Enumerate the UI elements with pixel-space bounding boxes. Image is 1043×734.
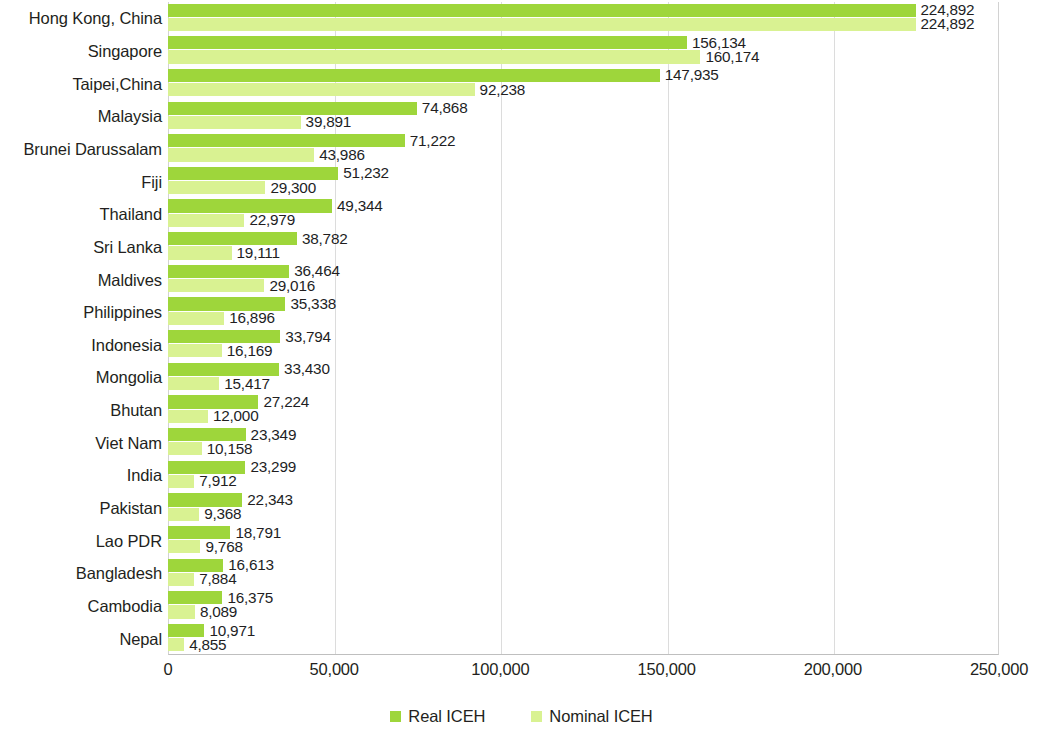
bar-value-label-nominal: 8,089 <box>200 605 237 618</box>
category-label: Philippines <box>2 303 162 322</box>
bar-nominal <box>168 475 194 488</box>
bar-value-label-nominal: 4,855 <box>189 638 226 651</box>
category-label: Indonesia <box>2 336 162 355</box>
legend-item[interactable]: Real ICEH <box>390 707 485 726</box>
x-tick-label: 250,000 <box>970 660 1028 679</box>
chart-row: Cambodia16,3758,089 <box>168 590 1043 623</box>
bar-nominal <box>168 540 200 553</box>
bar-nominal <box>168 377 219 390</box>
bar-nominal <box>168 344 222 357</box>
category-label: Viet Nam <box>2 434 162 453</box>
bar-value-label-real: 74,868 <box>422 101 468 114</box>
chart-row: Bhutan27,22412,000 <box>168 394 1043 427</box>
bar-value-label-real: 35,338 <box>290 297 336 310</box>
bar-value-label-nominal: 7,912 <box>199 474 236 487</box>
x-tick-label: 100,000 <box>471 660 529 679</box>
legend-item[interactable]: Nominal ICEH <box>531 707 652 726</box>
bar-value-label-real: 33,430 <box>284 362 330 375</box>
bar-nominal <box>168 148 314 161</box>
legend-swatch-icon <box>390 711 401 722</box>
bar-value-label-nominal: 10,158 <box>207 442 253 455</box>
bar-value-label-real: 22,343 <box>247 493 293 506</box>
bar-nominal <box>168 246 232 259</box>
bar-real <box>168 69 660 82</box>
bar-nominal <box>168 410 208 423</box>
bar-value-label-real: 49,344 <box>337 199 383 212</box>
bar-value-label-nominal: 16,169 <box>227 344 273 357</box>
legend-label: Real ICEH <box>408 707 485 726</box>
chart-row: Philippines35,33816,896 <box>168 296 1043 329</box>
bar-real <box>168 134 405 147</box>
x-axis-tick-labels: 050,000100,000150,000200,000250,000 <box>0 660 1043 688</box>
chart-row: Thailand49,34422,979 <box>168 198 1043 231</box>
bar-value-label-nominal: 9,368 <box>204 507 241 520</box>
category-label: Singapore <box>2 42 162 61</box>
bar-real <box>168 363 279 376</box>
bar-nominal <box>168 181 265 194</box>
bar-value-label-nominal: 16,896 <box>229 311 275 324</box>
bar-chart: Hong Kong, China224,892224,892Singapore1… <box>0 0 1043 734</box>
bar-value-label-nominal: 29,300 <box>270 181 316 194</box>
bar-value-label-nominal: 43,986 <box>319 148 365 161</box>
chart-row: Hong Kong, China224,892224,892 <box>168 2 1043 35</box>
bar-nominal <box>168 83 475 96</box>
bar-value-label-nominal: 12,000 <box>213 409 259 422</box>
bar-value-label-nominal: 15,417 <box>224 377 270 390</box>
chart-legend: Real ICEHNominal ICEH <box>0 707 1043 726</box>
bar-value-label-real: 23,299 <box>250 460 296 473</box>
x-tick-label: 50,000 <box>310 660 359 679</box>
chart-row: Indonesia33,79416,169 <box>168 329 1043 362</box>
bar-value-label-nominal: 92,238 <box>480 83 526 96</box>
bar-value-label-real: 23,349 <box>251 428 297 441</box>
chart-row: Brunei Darussalam71,22243,986 <box>168 133 1043 166</box>
chart-row: Nepal10,9714,855 <box>168 622 1043 655</box>
chart-row: Pakistan22,3439,368 <box>168 492 1043 525</box>
bar-value-label-nominal: 7,884 <box>199 572 236 585</box>
bar-nominal <box>168 18 916 31</box>
category-label: Brunei Darussalam <box>2 140 162 159</box>
chart-row: Viet Nam23,34910,158 <box>168 426 1043 459</box>
bar-value-label-real: 10,971 <box>209 624 255 637</box>
bar-nominal <box>168 214 244 227</box>
bar-real <box>168 4 916 17</box>
bar-nominal <box>168 279 264 292</box>
x-tick-label: 200,000 <box>804 660 862 679</box>
bar-value-label-real: 33,794 <box>285 330 331 343</box>
category-label: Lao PDR <box>2 532 162 551</box>
bar-nominal <box>168 638 184 651</box>
category-label: Bhutan <box>2 401 162 420</box>
bar-value-label-nominal: 39,891 <box>306 115 352 128</box>
category-label: Sri Lanka <box>2 238 162 257</box>
chart-row: Maldives36,46429,016 <box>168 263 1043 296</box>
bar-nominal <box>168 605 195 618</box>
bar-nominal <box>168 442 202 455</box>
category-label: Taipei,China <box>2 75 162 94</box>
category-label: Malaysia <box>2 107 162 126</box>
chart-row: India23,2997,912 <box>168 459 1043 492</box>
category-label: Cambodia <box>2 597 162 616</box>
category-label: Bangladesh <box>2 564 162 583</box>
bar-value-label-real: 38,782 <box>302 232 348 245</box>
category-label: Hong Kong, China <box>2 9 162 28</box>
bar-value-label-nominal: 224,892 <box>921 17 975 30</box>
category-label: India <box>2 466 162 485</box>
category-label: Nepal <box>2 630 162 649</box>
bar-value-label-real: 71,222 <box>410 134 456 147</box>
x-tick-label: 150,000 <box>637 660 695 679</box>
category-label: Thailand <box>2 205 162 224</box>
chart-row: Bangladesh16,6137,884 <box>168 557 1043 590</box>
chart-row: Mongolia33,43015,417 <box>168 361 1043 394</box>
category-label: Pakistan <box>2 499 162 518</box>
bar-real <box>168 102 417 115</box>
bar-value-label-nominal: 160,174 <box>705 50 759 63</box>
chart-rows: Hong Kong, China224,892224,892Singapore1… <box>168 2 1043 655</box>
bar-value-label-nominal: 22,979 <box>249 213 295 226</box>
bar-value-label-real: 36,464 <box>294 264 340 277</box>
chart-row: Taipei,China147,93592,238 <box>168 67 1043 100</box>
bar-value-label-nominal: 29,016 <box>269 279 315 292</box>
bar-nominal <box>168 573 194 586</box>
chart-row: Singapore156,134160,174 <box>168 35 1043 68</box>
legend-swatch-icon <box>531 711 542 722</box>
bar-value-label-real: 147,935 <box>665 68 719 81</box>
bar-value-label-real: 27,224 <box>263 395 309 408</box>
